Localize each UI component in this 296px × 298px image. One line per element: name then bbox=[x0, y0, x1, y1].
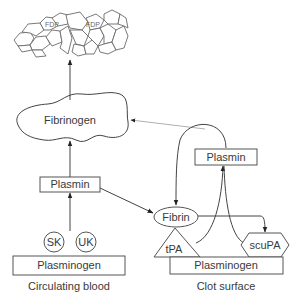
uk-label: UK bbox=[78, 236, 94, 248]
arrow-plasmin-to-fibrin bbox=[100, 188, 153, 213]
scupa-label: scuPA bbox=[250, 239, 282, 251]
tpa-label: tPA bbox=[166, 243, 184, 255]
fdp-label-2: FDP bbox=[86, 21, 100, 28]
fdp-fragments: FDP FDP bbox=[14, 10, 128, 57]
fibrin-node: Fibrin bbox=[154, 207, 198, 227]
plasmin-blood-node: Plasmin bbox=[40, 177, 100, 192]
sk-label: SK bbox=[47, 236, 62, 248]
plasminogen-clot-node: Plasminogen bbox=[170, 257, 283, 274]
plasmin-clot-node: Plasmin bbox=[195, 149, 257, 165]
fibrinolysis-diagram: FDP FDP Fibrinogen Plasmin SK UK Plasmin… bbox=[0, 0, 296, 298]
plasminogen-blood-label: Plasminogen bbox=[37, 259, 101, 271]
fibrin-label: Fibrin bbox=[162, 211, 190, 223]
scupa-node: scuPA bbox=[241, 233, 289, 257]
fibrinogen-label: Fibrinogen bbox=[44, 114, 96, 126]
plasmin-blood-label: Plasmin bbox=[50, 178, 89, 190]
caption-clot-surface: Clot surface bbox=[197, 280, 256, 292]
sk-node: SK bbox=[44, 232, 64, 252]
arrow-tpa-to-plasmin bbox=[196, 166, 223, 243]
plasmin-clot-label: Plasmin bbox=[206, 151, 245, 163]
uk-node: UK bbox=[76, 232, 96, 252]
caption-circulating-blood: Circulating blood bbox=[28, 280, 110, 292]
arrow-plasmin-clot-to-fibrinogen bbox=[131, 120, 205, 129]
fdp-label-1: FDP bbox=[45, 21, 59, 28]
tpa-node: tPA bbox=[154, 228, 200, 257]
plasminogen-clot-label: Plasminogen bbox=[194, 259, 258, 271]
fibrinogen-node: Fibrinogen bbox=[17, 93, 128, 142]
plasminogen-blood-node: Plasminogen bbox=[13, 256, 125, 275]
arrow-scupa-to-plasmin bbox=[224, 166, 244, 243]
